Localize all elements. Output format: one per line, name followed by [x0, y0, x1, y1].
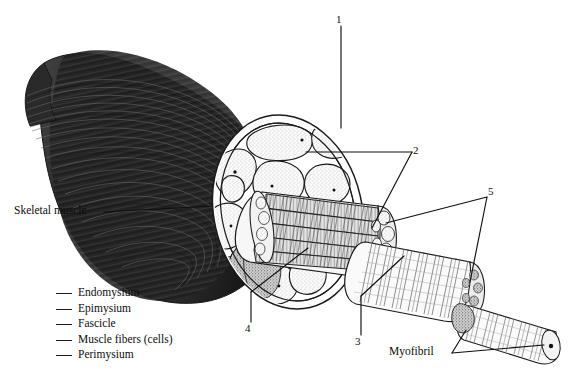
legend-label-epimysium: Epimysium	[78, 302, 131, 314]
label-myofibril: Myofibril	[389, 345, 434, 357]
leader-5a	[386, 197, 487, 223]
callout-5: 5	[488, 185, 494, 197]
callout-4: 4	[245, 322, 251, 334]
legend-item-endomysium[interactable]: Endomysium	[56, 286, 173, 302]
legend-item-muscle-fibers[interactable]: Muscle fibers (cells)	[56, 333, 173, 349]
label-skeletal-muscle: Skeletal muscle	[14, 204, 87, 216]
figure-canvas: 1 2 5 4 3 Skeletal muscle Myofibril Endo…	[0, 0, 574, 385]
answer-blank-muscle-fibers[interactable]	[56, 340, 72, 341]
legend-item-perimysium[interactable]: Perimysium	[56, 348, 173, 364]
answer-blank-fascicle[interactable]	[56, 324, 72, 325]
legend-label-fascicle: Fascicle	[78, 317, 116, 329]
callout-1: 1	[336, 13, 342, 25]
legend-label-perimysium: Perimysium	[78, 348, 134, 360]
legend-label-muscle-fibers: Muscle fibers (cells)	[78, 333, 173, 345]
legend-item-epimysium[interactable]: Epimysium	[56, 302, 173, 318]
myofibril-strand	[452, 304, 563, 364]
callout-3: 3	[355, 335, 361, 347]
answer-blank-perimysium[interactable]	[56, 355, 72, 356]
legend-label-endomysium: Endomysium	[78, 286, 139, 298]
answer-blank-epimysium[interactable]	[56, 309, 72, 310]
legend-item-fascicle[interactable]: Fascicle	[56, 317, 173, 333]
callout-2: 2	[413, 144, 419, 156]
answer-blank-endomysium[interactable]	[56, 293, 72, 294]
legend-answer-blanks: Endomysium Epimysium Fascicle Muscle fib…	[56, 286, 173, 364]
